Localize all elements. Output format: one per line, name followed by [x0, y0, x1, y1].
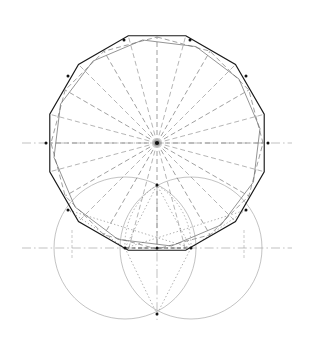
vertex-marker-top-left-shoulder: [123, 39, 126, 42]
vertex-marker-lower-axis-midpoint: [156, 247, 159, 250]
vertex-marker-right-equator-vertex: [267, 142, 270, 145]
geometry-canvas: [0, 0, 311, 349]
figure-background: [0, 0, 311, 349]
vertex-marker-lower-left-vertex: [67, 209, 70, 212]
vertex-marker-lower-right-vertex: [245, 209, 248, 212]
vertex-marker-circles-bottom-intersection: [156, 313, 159, 316]
vertex-marker-top-right-shoulder: [189, 39, 192, 42]
vertex-marker-upper-right-vertex: [245, 75, 248, 78]
vertex-marker-center-hub: [155, 141, 159, 145]
vertex-marker-upper-left-vertex: [67, 75, 70, 78]
vertex-marker-right-circle-center: [190, 247, 193, 250]
vertex-marker-left-equator-vertex: [45, 142, 48, 145]
geometric-figure: [0, 0, 311, 349]
vertex-marker-circles-top-intersection: [156, 184, 159, 187]
vertex-marker-left-circle-center: [124, 247, 127, 250]
